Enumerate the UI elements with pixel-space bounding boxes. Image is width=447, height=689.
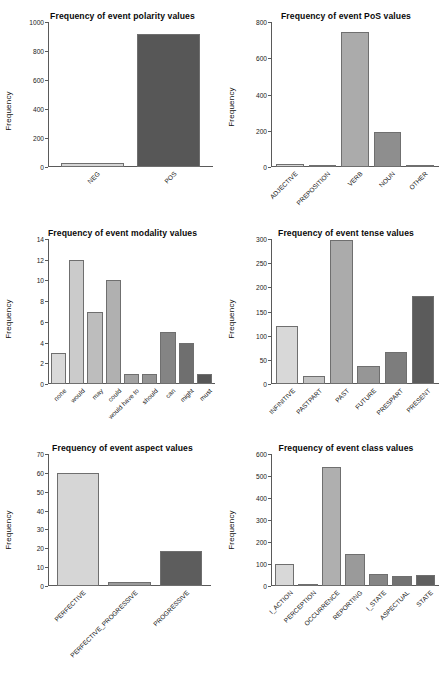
y-axis-tick-label: 10 [37,277,44,284]
x-axis-tick-label: POS [163,170,178,185]
y-axis-tick [268,131,271,132]
bar [160,332,175,384]
x-axis-tick-label: NEG [86,170,101,185]
y-axis-tick [45,138,48,139]
bar [197,374,212,384]
y-axis-tick [45,239,48,240]
y-axis-tick [268,476,271,477]
y-axis [271,22,272,167]
y-axis-tick-label: 70 [37,451,44,458]
y-axis-tick [268,312,271,313]
y-axis-tick-label: 0 [40,583,44,590]
x-axis-tick-label: OTHER [408,170,429,191]
x-axis-tick-label: INFINITIVE [267,387,295,415]
y-axis-tick-label: 4 [40,339,44,346]
y-axis-tick-label: 600 [256,451,267,458]
y-axis-tick-label: 50 [260,356,267,363]
bar [142,374,157,384]
y-axis [48,22,49,167]
y-axis [271,454,272,586]
y-axis-tick-label: 50 [37,488,44,495]
chart-title: Frequency of event modality values [0,228,223,238]
plot-area: 02004006008001000NEGPOS [48,22,213,167]
bar [87,312,102,385]
bar [385,352,408,384]
bar [57,473,100,586]
y-axis-tick [45,343,48,344]
y-axis-tick-label: 300 [256,236,267,243]
chart-title: Frequency of event aspect values [0,443,223,453]
chart-panel-aspect: Frequency of event aspect values Frequen… [0,437,223,689]
x-axis-tick-label: PREPOSITION [295,170,331,206]
y-axis-tick-label: 250 [256,260,267,267]
chart-panel-polarity: Frequency of event polarity values Frequ… [0,0,223,222]
bar [330,240,353,384]
x-axis-tick-label: should [140,387,158,405]
x-axis-tick-label: PRESPART [376,387,405,416]
y-axis [271,239,272,384]
y-axis-tick [268,542,271,543]
x-axis-tick-label: would [69,387,86,404]
y-axis-tick [45,586,48,587]
bar [160,551,203,586]
y-axis-tick-label: 0 [263,583,267,590]
y-axis-tick [268,498,271,499]
y-axis-tick-label: 800 [256,19,267,26]
y-axis-tick-label: 0 [40,381,44,388]
bar [406,165,433,167]
y-axis-tick [45,567,48,568]
y-axis-tick-label: 400 [256,91,267,98]
y-axis-tick-label: 1000 [29,19,44,26]
bar [108,582,151,586]
y-axis-label: Frequency [227,510,236,550]
x-axis-tick-label: might [179,387,195,403]
y-axis-tick-label: 0 [263,381,267,388]
plot-area: 050100150200250300INFINITIVEPASTPARTPAST… [271,239,439,384]
x-axis-tick-label: FUTURE [354,387,378,411]
y-axis-tick [268,360,271,361]
y-axis-tick [45,280,48,281]
y-axis-label: Frequency [4,510,13,550]
bar [276,164,303,167]
bar [303,376,326,384]
bar [374,132,401,167]
y-axis-tick [268,520,271,521]
y-axis-tick [45,492,48,493]
y-axis-tick [268,564,271,565]
y-axis-tick-label: 400 [33,106,44,113]
y-axis-label: Frequency [4,91,13,131]
bar [179,343,194,384]
x-axis-tick-label: VERB [346,170,363,187]
plot-area: 010203040506070PERFECTIVEPERFECTIVE_PROG… [48,454,211,586]
y-axis-tick-label: 800 [33,48,44,55]
y-axis-tick [45,473,48,474]
x-axis-tick-label: must [198,387,213,402]
y-axis-tick [45,109,48,110]
x-axis-tick-label: can [165,387,177,399]
y-axis-tick-label: 0 [40,164,44,171]
y-axis-tick [45,529,48,530]
bar [276,326,299,384]
y-axis-tick-label: 2 [40,360,44,367]
y-axis [48,239,49,384]
y-axis-tick-label: 6 [40,318,44,325]
bar [298,584,318,586]
chart-panel-modality: Frequency of event modality values Frequ… [0,222,223,437]
y-axis-tick-label: 14 [37,236,44,243]
y-axis-tick [268,336,271,337]
y-axis-tick [268,167,271,168]
x-axis-tick-label: PASTPART [295,387,323,415]
y-axis-tick-label: 100 [256,561,267,568]
y-axis-tick [45,511,48,512]
y-axis-tick-label: 200 [33,135,44,142]
plot-area: 0100200300400500600I_ACTIONPERCEPTIONOCC… [271,454,439,586]
plot-area: 0200400600800ADJECTIVEPREPOSITIONVERBNOU… [271,22,439,167]
bar [345,554,365,586]
y-axis-tick-label: 12 [37,256,44,263]
x-axis-tick-label: ADJECTIVE [269,170,299,200]
y-axis-tick [268,287,271,288]
bar [309,165,336,167]
bar [69,260,84,384]
y-axis-tick-label: 60 [37,469,44,476]
y-axis-tick [45,384,48,385]
